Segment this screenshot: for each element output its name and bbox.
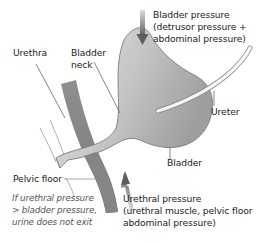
bladder-pressure-diagram: Urethra Bladder neck Bladder pressure (d… xyxy=(0,0,258,243)
pelvic-floor-label: Pelvic floor xyxy=(13,173,62,185)
bladder-label: Bladder xyxy=(167,157,202,169)
bladder-neck-leader xyxy=(94,62,120,113)
bladder-pressure-label-line2: (detrusor pressure + xyxy=(153,21,247,33)
urethral-pressure-label-line3: abdominal pressure) xyxy=(123,217,216,229)
urethra-leader xyxy=(36,64,65,118)
ureter-label: Ureter xyxy=(211,106,239,118)
urethral-pressure-label-line2: (urethral muscle, pelvic floor xyxy=(123,205,252,217)
note-line3: urine does not exit xyxy=(12,217,92,229)
bladder-neck-label-line1: Bladder xyxy=(71,47,106,59)
bladder-pressure-label-line3: abdominal pressure) xyxy=(153,33,246,45)
note-line2: > bladder pressure, xyxy=(12,205,97,217)
bladder-neck-label-line2: neck xyxy=(71,59,92,71)
bladder-pressure-label-line1: Bladder pressure xyxy=(153,9,230,21)
note-line1: If urethral pressure xyxy=(12,193,94,205)
urethral-pressure-label-line1: Urethral pressure xyxy=(123,193,201,205)
urethra-label: Urethra xyxy=(13,47,47,59)
